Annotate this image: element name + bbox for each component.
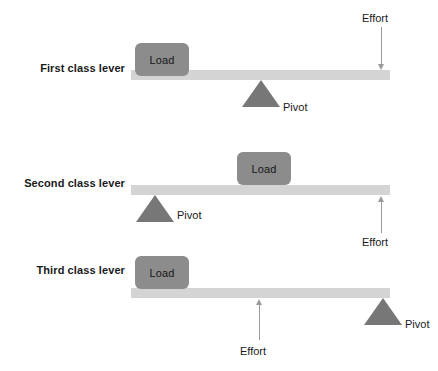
effort-arrow-shaft-second-class [381,201,382,233]
pivot-label-third-class: Pivot [405,318,429,330]
pivot-label-second-class: Pivot [177,209,201,221]
load-block-label: Load [150,267,175,279]
effort-arrow-shaft-third-class [259,304,260,340]
pivot-triangle-third-class [364,298,402,325]
lever-diagram-figure: First class lever Load Pivot Effort Seco… [0,0,438,371]
lever-beam-second-class [131,185,390,195]
third-class-lever-group: Third class lever Load Pivot Effort [0,0,438,125]
load-block-second-class: Load [237,152,291,185]
lever-label-second-class: Second class lever [24,177,125,189]
load-block-third-class: Load [135,256,189,289]
effort-label-third-class: Effort [240,345,266,357]
pivot-triangle-second-class [136,195,174,222]
lever-label-third-class: Third class lever [36,264,125,276]
load-block-label: Load [252,163,277,175]
lever-beam-third-class [131,288,390,298]
effort-label-second-class: Effort [362,236,388,248]
